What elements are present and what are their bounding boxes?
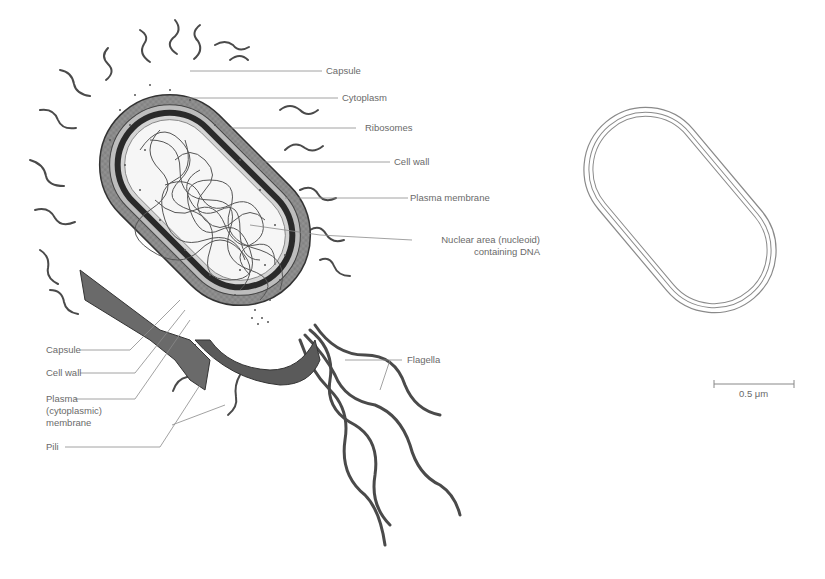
label-plasma-line1: Plasma — [46, 393, 102, 405]
label-plasma-membrane-left: Plasma (cytoplasmic) membrane — [46, 393, 102, 429]
label-ribosomes: Ribosomes — [365, 122, 413, 134]
scale-bar — [714, 380, 794, 388]
label-nucleoid-line1: Nuclear area (nucleoid) — [414, 234, 540, 246]
label-nucleoid-line2: containing DNA — [414, 246, 540, 258]
label-nucleoid: Nuclear area (nucleoid) containing DNA — [414, 234, 540, 258]
cell-outline-drawing — [559, 82, 802, 338]
bacterial-cell-illustration — [0, 0, 825, 579]
label-plasma-line3: membrane — [46, 417, 102, 429]
label-cell-wall-left: Cell wall — [46, 367, 81, 379]
label-plasma-line2: (cytoplasmic) — [46, 405, 102, 417]
label-pili: Pili — [46, 441, 59, 453]
label-capsule-left: Capsule — [46, 344, 81, 356]
label-cytoplasm: Cytoplasm — [342, 92, 387, 104]
label-flagella: Flagella — [407, 354, 440, 366]
scale-bar-label: 0.5 μm — [739, 388, 768, 400]
label-plasma-membrane: Plasma membrane — [410, 192, 490, 204]
label-capsule: Capsule — [326, 65, 361, 77]
label-cell-wall: Cell wall — [394, 156, 429, 168]
